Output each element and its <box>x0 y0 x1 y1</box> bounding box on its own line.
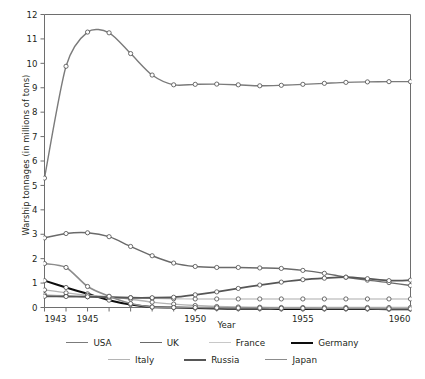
legend-label: USA <box>93 338 111 348</box>
series-line <box>45 277 411 298</box>
data-point <box>193 264 197 268</box>
legend-line-swatch <box>209 342 231 343</box>
data-point <box>387 297 391 301</box>
data-point <box>236 306 240 310</box>
data-point <box>150 300 154 304</box>
data-point <box>215 290 219 294</box>
data-point <box>193 297 197 301</box>
data-point <box>129 301 133 305</box>
data-point <box>42 236 46 240</box>
data-point <box>322 276 326 280</box>
data-point <box>172 295 176 299</box>
y-axis-tick-label: 2 <box>32 254 37 264</box>
data-point <box>408 278 412 282</box>
series-line <box>45 264 411 309</box>
data-point <box>387 80 391 84</box>
y-axis-tick-label: 4 <box>32 205 37 215</box>
legend-item-germany: Germany <box>291 338 358 348</box>
data-point <box>279 280 283 284</box>
data-point <box>365 297 369 301</box>
data-point <box>344 297 348 301</box>
data-point <box>236 297 240 301</box>
legend-line-swatch <box>265 359 287 360</box>
data-point <box>258 84 262 88</box>
data-point <box>258 266 262 270</box>
legend-line-swatch <box>184 359 206 361</box>
data-point <box>42 294 46 298</box>
legend-line-swatch <box>291 342 313 344</box>
data-point <box>258 306 262 310</box>
data-point <box>85 295 89 299</box>
legend-item-italy: Italy <box>108 355 154 365</box>
data-point <box>64 294 68 298</box>
data-point <box>236 265 240 269</box>
chart-root: Warship tonnages (in millions of tons) 0… <box>0 0 425 379</box>
y-axis-tick-label: 6 <box>32 156 37 166</box>
legend-label: Italy <box>135 355 154 365</box>
data-point <box>193 82 197 86</box>
data-point <box>301 297 305 301</box>
data-point <box>408 307 412 311</box>
data-point <box>150 296 154 300</box>
data-point <box>193 293 197 297</box>
y-axis-tick-label: 3 <box>32 229 37 239</box>
legend-item-france: France <box>209 338 265 348</box>
legend-item-uk: UK <box>140 338 179 348</box>
data-point <box>193 305 197 309</box>
data-point <box>344 275 348 279</box>
data-point <box>301 306 305 310</box>
data-point <box>365 306 369 310</box>
series-japan <box>42 261 412 310</box>
data-point <box>215 297 219 301</box>
legend-item-usa: USA <box>66 338 111 348</box>
legend-label: France <box>236 338 265 348</box>
y-axis-tick-label: 1 <box>32 278 37 288</box>
data-point <box>301 82 305 86</box>
legend-line-swatch <box>66 342 88 343</box>
y-axis-tick-label: 7 <box>32 132 37 142</box>
x-axis-title: Year <box>0 320 425 330</box>
data-point <box>236 286 240 290</box>
data-point <box>387 279 391 283</box>
data-point <box>172 305 176 309</box>
legend-label: Russia <box>211 355 239 365</box>
data-point <box>408 80 412 84</box>
data-point <box>301 268 305 272</box>
data-point <box>408 297 412 301</box>
data-point <box>150 254 154 258</box>
data-point <box>344 80 348 84</box>
legend-row-1: USAUKFranceGermany <box>0 334 425 351</box>
legend-label: UK <box>167 338 179 348</box>
series-group <box>42 29 412 311</box>
data-point <box>129 296 133 300</box>
legend-label: Germany <box>318 338 358 348</box>
plot-frame <box>45 15 411 308</box>
y-axis-tick-label: 10 <box>27 59 38 69</box>
data-point <box>85 30 89 34</box>
data-point <box>42 261 46 265</box>
y-axis-tick-label: 0 <box>32 303 37 313</box>
chart-legend: USAUKFranceGermany ItalyRussiaJapan <box>0 334 425 368</box>
legend-line-swatch <box>140 342 162 343</box>
series-line <box>45 29 411 178</box>
data-point <box>258 283 262 287</box>
data-point <box>150 305 154 309</box>
data-point <box>107 31 111 35</box>
data-point <box>64 64 68 68</box>
data-point <box>64 285 68 289</box>
data-point <box>322 81 326 85</box>
data-point <box>64 265 68 269</box>
data-point <box>172 83 176 87</box>
data-point <box>107 235 111 239</box>
data-point <box>322 271 326 275</box>
data-point <box>150 73 154 77</box>
data-point <box>279 306 283 310</box>
y-axis-tick-label: 9 <box>32 83 37 93</box>
data-point <box>344 306 348 310</box>
data-point <box>365 80 369 84</box>
data-point <box>129 244 133 248</box>
data-point <box>215 265 219 269</box>
data-point <box>42 176 46 180</box>
series-usa <box>42 29 412 180</box>
y-axis-tick-label: 8 <box>32 107 37 117</box>
